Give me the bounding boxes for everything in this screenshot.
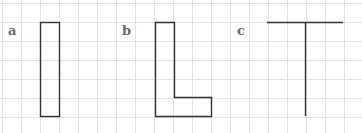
t-shape xyxy=(267,23,343,117)
vertical-bar-shape xyxy=(41,23,60,117)
panel-a-label: a xyxy=(8,23,17,38)
panel-c-label: c xyxy=(237,23,245,38)
panel-b-label: b xyxy=(122,23,131,38)
l-shape xyxy=(156,23,212,117)
grid-lines xyxy=(0,0,362,133)
grid-figure: a b c xyxy=(0,0,362,133)
